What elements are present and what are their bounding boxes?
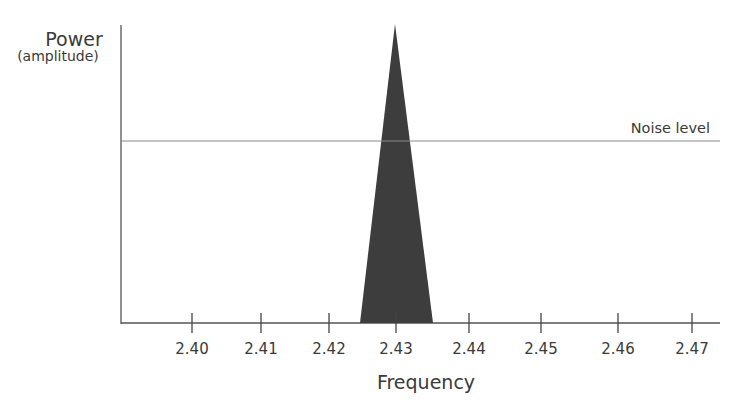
y-axis-subtitle: (amplitude) <box>17 48 99 64</box>
signal-peak <box>360 24 433 323</box>
x-axis-title: Frequency <box>377 371 475 393</box>
x-tick-label: 2.42 <box>312 340 345 358</box>
x-tick-label: 2.40 <box>175 340 208 358</box>
x-tick-label: 2.41 <box>244 340 277 358</box>
x-tick-label: 2.47 <box>675 340 708 358</box>
noise-level-label: Noise level <box>631 120 710 136</box>
y-axis-title: Power <box>45 28 103 50</box>
x-tick-label: 2.44 <box>452 340 485 358</box>
frequency-power-diagram: 2.40 2.41 2.42 2.43 2.44 2.45 2.46 2.47 … <box>0 0 753 417</box>
x-tick-label: 2.45 <box>524 340 557 358</box>
x-tick-label: 2.46 <box>601 340 634 358</box>
x-tick-label: 2.43 <box>379 340 412 358</box>
